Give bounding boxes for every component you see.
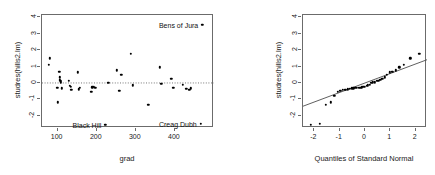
y-tick-mark: [298, 16, 301, 17]
y-tick-mark: [37, 16, 40, 17]
y-tick-mark: [37, 98, 40, 99]
y-tick-mark: [298, 98, 301, 99]
y-tick-label: 3: [31, 29, 35, 36]
qq-reference-line: [303, 60, 427, 107]
y-tick-label: -1: [29, 95, 35, 102]
y-tick-mark: [37, 115, 40, 116]
y-tick-label: 4: [31, 13, 35, 20]
x-tick-mark: [135, 128, 136, 131]
x-tick-label: 100: [51, 133, 63, 140]
y-tick-mark: [37, 66, 40, 67]
x-tick-mark: [415, 128, 416, 131]
y-tick-label: 1: [292, 62, 296, 69]
point-annotation-black-hill: Black Hill: [73, 121, 102, 128]
left-y-axis-title: studres(hills2.lm): [14, 42, 22, 99]
left-x-axis-title: grad: [119, 155, 134, 163]
right-plot-area: [303, 15, 425, 126]
x-tick-label: -2: [310, 133, 316, 140]
y-tick-mark: [37, 82, 40, 83]
y-tick-mark: [37, 33, 40, 34]
y-tick-label: 2: [31, 46, 35, 53]
y-tick-label: 1: [31, 62, 35, 69]
right-line-layer: [303, 15, 427, 128]
x-tick-label: 2: [413, 133, 417, 140]
x-tick-mark: [57, 128, 58, 131]
right-plot-frame: [302, 14, 426, 127]
right-x-axis-title: Quantiles of Standard Normal: [315, 155, 414, 163]
residuals-vs-grad-panel: Bens of JuraBlack HillCreag Dubh 1002003…: [0, 0, 218, 175]
y-tick-mark: [298, 82, 301, 83]
x-tick-mark: [313, 128, 314, 131]
y-tick-label: -1: [290, 95, 296, 102]
x-tick-mark: [364, 128, 365, 131]
x-tick-mark: [389, 128, 390, 131]
y-tick-mark: [298, 49, 301, 50]
x-tick-label: 1: [387, 133, 391, 140]
x-tick-label: 0: [362, 133, 366, 140]
y-tick-mark: [298, 33, 301, 34]
y-tick-label: 0: [31, 78, 35, 85]
x-tick-label: -1: [336, 133, 342, 140]
x-tick-mark: [96, 128, 97, 131]
left-plot-frame: Bens of JuraBlack HillCreag Dubh: [41, 14, 213, 127]
y-tick-mark: [298, 115, 301, 116]
point-annotation-creag-dubh: Creag Dubh: [159, 120, 197, 127]
y-tick-label: 0: [292, 78, 296, 85]
y-tick-label: -2: [29, 111, 35, 118]
normal-qq-panel: -2-1012-2-101234 Quantiles of Standard N…: [218, 0, 435, 175]
left-plot-area: Bens of JuraBlack HillCreag Dubh: [42, 15, 212, 126]
y-tick-label: -2: [290, 111, 296, 118]
left-line-layer: [42, 15, 214, 128]
y-tick-mark: [37, 49, 40, 50]
x-tick-mark: [174, 128, 175, 131]
y-tick-mark: [298, 66, 301, 67]
y-tick-label: 2: [292, 46, 296, 53]
x-tick-label: 400: [168, 133, 180, 140]
right-y-axis-title: studres(hills2.lm): [275, 42, 283, 99]
x-tick-label: 300: [129, 133, 141, 140]
y-tick-label: 4: [292, 13, 296, 20]
x-tick-label: 200: [90, 133, 102, 140]
x-tick-mark: [339, 128, 340, 131]
y-tick-label: 3: [292, 29, 296, 36]
point-annotation-bens-of-jura: Bens of Jura: [159, 21, 198, 28]
figure-root: Bens of JuraBlack HillCreag Dubh 1002003…: [0, 0, 435, 175]
